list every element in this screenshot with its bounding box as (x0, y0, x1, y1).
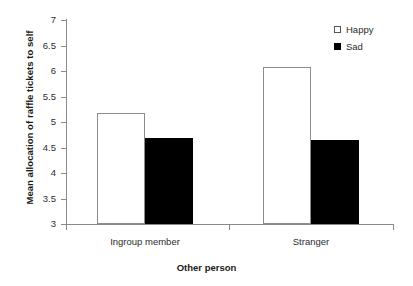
y-axis-tick (61, 173, 66, 174)
y-axis-tick-label: 4.5 (16, 143, 56, 153)
bar-stranger-sad (311, 140, 359, 224)
y-axis-tick (61, 148, 66, 149)
y-axis-tick (61, 122, 66, 123)
bar-ingroup-member-sad (145, 138, 193, 224)
x-axis-title: Other person (0, 262, 413, 273)
x-axis-tick-middle (229, 225, 230, 230)
legend-swatch-open-square-icon (334, 26, 341, 33)
y-axis-tick (61, 199, 66, 200)
x-axis-category-label: Stranger (251, 236, 371, 247)
legend: Happy Sad (334, 21, 373, 55)
y-axis-tick-label: 6.5 (16, 41, 56, 51)
bar-stranger-happy (263, 67, 311, 224)
legend-item-sad: Sad (334, 38, 373, 55)
y-axis-line (66, 19, 67, 225)
bar-chart-figure: Mean allocation of raffle tickets to sel… (0, 0, 413, 286)
y-axis-tick (61, 71, 66, 72)
y-axis-tick (61, 20, 66, 21)
y-axis-tick (61, 97, 66, 98)
x-axis-line (66, 224, 394, 225)
y-axis-tick (61, 46, 66, 47)
legend-item-happy: Happy (334, 21, 373, 38)
legend-label-sad: Sad (346, 42, 363, 52)
y-axis-tick-label: 4 (16, 168, 56, 178)
y-axis-tick-label: 3 (16, 219, 56, 229)
legend-swatch-filled-square-icon (334, 43, 341, 50)
y-axis-tick-label: 7 (16, 15, 56, 25)
x-axis-tick-end (393, 225, 394, 230)
y-axis-tick-label: 6 (16, 66, 56, 76)
y-axis-tick-label: 3.5 (16, 194, 56, 204)
legend-label-happy: Happy (346, 25, 373, 35)
x-axis-category-label: Ingroup member (85, 236, 205, 247)
bar-ingroup-member-happy (97, 113, 145, 224)
y-axis-tick-label: 5.5 (16, 92, 56, 102)
y-axis-tick-label: 5 (16, 117, 56, 127)
x-axis-tick-start (66, 225, 67, 230)
